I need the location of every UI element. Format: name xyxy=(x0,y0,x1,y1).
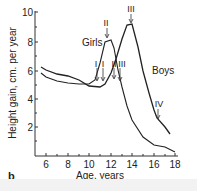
x-tick-10: 10 xyxy=(83,159,95,170)
y-tick-6: 6 xyxy=(27,66,33,77)
x-tick-16: 16 xyxy=(148,159,160,170)
bottom-strip xyxy=(0,179,197,191)
x-tick-labels: 6 8 10 12 14 16 18 xyxy=(43,159,181,170)
y-tick-2: 2 xyxy=(27,122,33,133)
growth-velocity-chart: 10 8 6 4 2 6 8 10 12 14 16 18 Age, years… xyxy=(0,0,197,191)
stage-arrows xyxy=(95,14,160,119)
boys-stage-I: I xyxy=(102,59,105,69)
y-axis-label: Height gain, cm. per year xyxy=(7,26,18,138)
girls-stage-II: II xyxy=(103,18,108,28)
boys-label: Boys xyxy=(152,65,174,76)
boys-stage-II: II xyxy=(111,59,116,69)
girls-stage-III: III xyxy=(118,59,126,69)
girls-label: Girls xyxy=(82,37,103,48)
girls-stage-I: I xyxy=(95,59,98,69)
x-tick-14: 14 xyxy=(126,159,138,170)
x-tick-12: 12 xyxy=(105,159,117,170)
x-tick-6: 6 xyxy=(43,159,49,170)
y-tick-10: 10 xyxy=(22,7,34,18)
y-tick-labels: 10 8 6 4 2 xyxy=(22,7,34,133)
boys-stage-III: III xyxy=(127,4,135,14)
girls-curve xyxy=(41,40,175,152)
y-tick-8: 8 xyxy=(27,37,33,48)
x-tick-8: 8 xyxy=(65,159,71,170)
boys-stage-IV: IV xyxy=(155,99,164,109)
axes xyxy=(35,11,178,156)
y-tick-4: 4 xyxy=(27,94,33,105)
x-tick-18: 18 xyxy=(169,159,181,170)
boys-curve xyxy=(41,24,170,134)
